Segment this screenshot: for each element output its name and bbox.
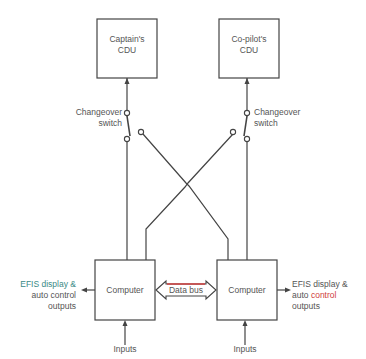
left-switch-bottom-contact bbox=[124, 136, 129, 141]
data-bus-label: Data bus bbox=[164, 285, 208, 296]
left-switch-alt-contact bbox=[138, 129, 143, 134]
copilot-cdu-label: Co-pilot's CDU bbox=[219, 34, 279, 56]
left-efis-output-label: EFIS display & auto control outputs bbox=[8, 279, 76, 312]
right-switch-bottom-contact bbox=[244, 136, 249, 141]
right-changeover-switch-label: Changeover switch bbox=[254, 107, 300, 129]
captain-cdu-label: Captain's CDU bbox=[97, 34, 157, 56]
left-switch-top-contact bbox=[124, 110, 129, 115]
right-switch-alt-contact bbox=[230, 129, 235, 134]
right-inputs-label: Inputs bbox=[225, 344, 265, 355]
right-computer-label: Computer bbox=[217, 285, 277, 296]
left-computer-label: Computer bbox=[95, 285, 155, 296]
right-efis-output-label: EFIS display & auto control outputs bbox=[292, 279, 348, 312]
right-switch-top-contact bbox=[244, 110, 249, 115]
left-inputs-label: Inputs bbox=[105, 344, 145, 355]
left-changeover-switch-label: Changeover switch bbox=[60, 107, 122, 129]
